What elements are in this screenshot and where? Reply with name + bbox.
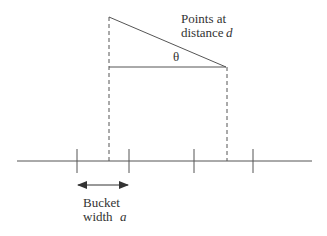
points-label-line1: Points at: [181, 11, 227, 26]
bucket-label-line2: width: [83, 209, 113, 224]
bucket-label-line1: Bucket: [83, 195, 120, 210]
width-variable-a: a: [120, 209, 127, 224]
bucket-projection-diagram: Points at distance d θ Bucket width a: [0, 0, 327, 236]
distance-variable-d: d: [226, 25, 233, 40]
angle-theta-label: θ: [173, 49, 179, 64]
points-label-line2: distance: [181, 25, 224, 40]
